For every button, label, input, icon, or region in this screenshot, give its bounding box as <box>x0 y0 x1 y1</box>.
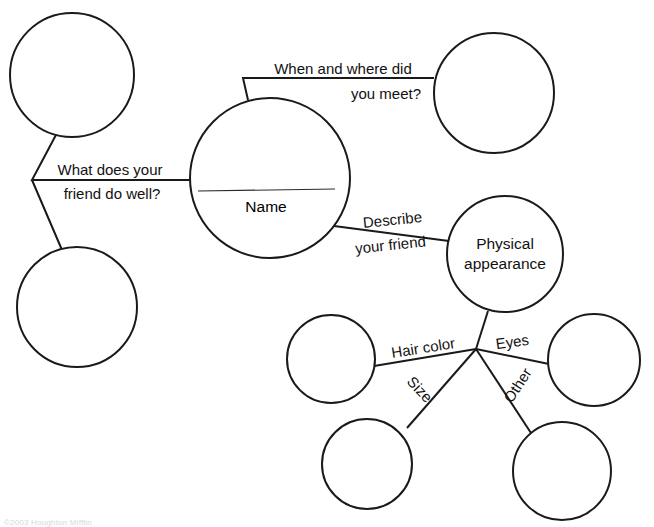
edge-label-describe-line2: your friend <box>354 232 426 256</box>
copyright-footer-note: ©2003 Houghton Mifflin <box>4 518 92 527</box>
edge-label-describe-line1: Describe <box>362 208 423 231</box>
edge-label-other: Other <box>500 365 535 406</box>
bubble-blank-top-left[interactable] <box>10 13 134 137</box>
node-label-physical-appearance-line2: appearance <box>464 255 546 272</box>
connector-physical-appearance-to-hub <box>476 311 488 349</box>
edge-label-eyes: Eyes <box>495 331 530 352</box>
bubble-blank-eyes[interactable] <box>548 314 640 406</box>
bubble-center-name[interactable] <box>190 98 350 258</box>
edge-label-when-where-line1: When and where did <box>274 60 412 77</box>
node-label-physical-appearance-line1: Physical <box>476 235 534 252</box>
bubble-blank-top-right[interactable] <box>434 33 554 153</box>
edge-label-do-well-line1: What does your <box>57 161 162 178</box>
bubble-blank-hair-color[interactable] <box>287 315 375 403</box>
bubble-blank-other[interactable] <box>513 422 611 520</box>
bubble-blank-bottom-left[interactable] <box>17 247 137 367</box>
edge-label-when-where-line2: you meet? <box>351 85 421 102</box>
bubble-physical-appearance[interactable] <box>447 196 563 312</box>
center-node-name-label: Name <box>245 198 286 215</box>
bubble-blank-size[interactable] <box>322 419 412 509</box>
edge-label-do-well-line2: friend do well? <box>64 185 161 202</box>
connector-eyes <box>476 349 549 364</box>
